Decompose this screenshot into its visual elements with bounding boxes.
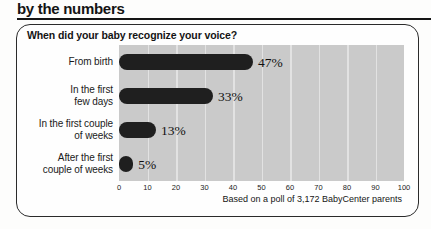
bar-value-label: 33% [218,88,243,105]
x-axis-tick-label: 50 [250,183,274,192]
bar-value-label: 13% [161,122,186,139]
bar [119,156,133,172]
x-axis-tick-label: 30 [193,183,217,192]
gridline [347,45,349,181]
category-label: In the firstfew days [23,84,113,107]
x-axis-tick-label: 70 [307,183,331,192]
category-label: From birth [23,56,113,68]
bar-value-label: 47% [258,54,283,71]
page-title: by the numbers [17,1,431,17]
poll-attribution: Based on a poll of 3,172 BabyCenter pare… [222,194,402,204]
x-axis-tick-label: 40 [221,183,245,192]
gridline [290,45,292,181]
bar-value-label: 5% [138,156,156,173]
page-headline-rule: by the numbers [17,1,431,20]
bar [119,54,253,70]
x-axis-tick-label: 80 [335,183,359,192]
bar [119,88,213,104]
bar [119,122,156,138]
x-axis-tick-label: 90 [364,183,388,192]
x-axis-tick-label: 0 [107,183,131,192]
chart-panel: When did your baby recognize your voice?… [16,24,419,217]
category-label: In the first coupleof weeks [23,118,113,141]
chart-question-heading: When did your baby recognize your voice? [27,29,237,41]
x-axis-tick-label: 10 [136,183,160,192]
x-axis-tick-label: 60 [278,183,302,192]
category-label: After the firstcouple of weeks [23,152,113,175]
gridline [319,45,321,181]
x-axis-tick-label: 100 [392,183,416,192]
gridline [376,45,378,181]
x-axis-tick-label: 20 [164,183,188,192]
